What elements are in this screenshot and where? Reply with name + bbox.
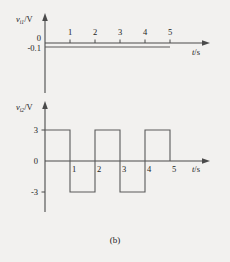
upper-x-tick-label-2: 2 bbox=[93, 27, 97, 37]
lower-chart: vi2/V 3 0 -3 1 2 3 4 bbox=[16, 101, 210, 212]
lower-y-axis-arrow bbox=[42, 101, 48, 109]
lower-y-tick-label-0: 0 bbox=[34, 156, 38, 166]
upper-y-tick-label-0: 0 bbox=[37, 33, 41, 43]
lower-x-axis-label-unit: /s bbox=[194, 164, 200, 174]
upper-chart: vi1/V 1 2 3 4 5 bbox=[16, 13, 210, 93]
upper-x-tick-labels: 1 2 3 4 5 bbox=[68, 27, 172, 37]
lower-y-tick-label-neg3: -3 bbox=[31, 187, 38, 197]
lower-y-axis-label: vi2/V bbox=[16, 102, 34, 113]
upper-x-tick-label-4: 4 bbox=[143, 27, 148, 37]
lower-x-tick-label-5: 5 bbox=[172, 164, 176, 174]
lower-y-axis-label-unit: /V bbox=[24, 102, 33, 112]
upper-x-tick-label-1: 1 bbox=[68, 27, 72, 37]
figure-caption: (b) bbox=[110, 235, 121, 245]
upper-x-tick-label-3: 3 bbox=[118, 27, 122, 37]
lower-y-tick-label-pos3: 3 bbox=[34, 125, 38, 135]
upper-x-axis-arrow bbox=[202, 40, 210, 46]
upper-y-tick-label-neg01: -0.1 bbox=[28, 43, 41, 53]
figure-panel-b: vi1/V 1 2 3 4 5 bbox=[0, 0, 230, 262]
lower-x-tick-label-4: 4 bbox=[147, 164, 152, 174]
lower-x-tick-label-3: 3 bbox=[122, 164, 126, 174]
upper-y-axis-label-unit: /V bbox=[24, 14, 33, 24]
lower-x-tick-label-2: 2 bbox=[97, 164, 101, 174]
lower-x-axis-label: t/s bbox=[192, 164, 200, 174]
lower-x-tick-label-1: 1 bbox=[72, 164, 76, 174]
lower-x-axis-arrow bbox=[202, 158, 210, 164]
upper-x-axis-label-unit: /s bbox=[194, 47, 200, 57]
upper-y-axis-arrow bbox=[42, 13, 48, 21]
upper-x-tick-label-5: 5 bbox=[168, 27, 172, 37]
upper-y-axis-label: vi1/V bbox=[16, 14, 34, 25]
upper-x-axis-label: t/s bbox=[192, 47, 200, 57]
waveform-figure: vi1/V 1 2 3 4 5 bbox=[0, 0, 230, 262]
lower-x-tick-labels: 1 2 3 4 5 bbox=[72, 164, 176, 174]
